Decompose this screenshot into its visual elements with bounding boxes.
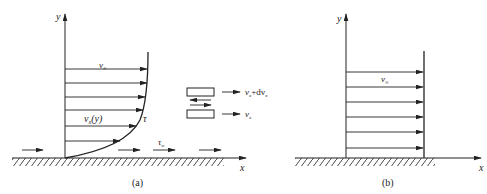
boundary-layer-diagram: y x v∞ vx(y) τ τw (a) vx+dvx vx y x (0, 0, 487, 194)
fluid-element: vx+dvx vx (187, 87, 268, 120)
ground-hatch-b (295, 158, 435, 166)
lower-velocity-label: vx (245, 109, 252, 120)
y-axis-label-a: y (55, 11, 61, 22)
caption-b: (b) (382, 177, 394, 189)
y-axis-label-b: y (336, 13, 342, 24)
caption-a: (a) (132, 177, 143, 189)
lower-layer-box (187, 110, 214, 118)
upper-velocity-label: vx+dvx (245, 87, 268, 98)
x-axis-label-a: x (239, 162, 245, 173)
free-stream-label-b: v∞ (381, 74, 389, 85)
free-stream-label-a: v∞ (99, 60, 107, 71)
profile-arrows-a (65, 69, 147, 141)
wall-shear-label: τw (158, 137, 165, 148)
x-axis-label-b: x (478, 162, 484, 173)
profile-label: vx(y) (84, 113, 103, 125)
ground-hatch-a (12, 158, 224, 166)
panel-b: y x v∞ (b) (295, 13, 484, 189)
upper-layer-box (187, 88, 214, 96)
shear-stress-label: τ (143, 113, 147, 124)
